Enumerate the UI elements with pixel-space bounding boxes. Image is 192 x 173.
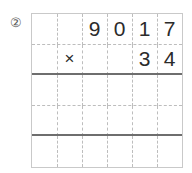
grid-cell-r5c6[interactable]	[157, 136, 182, 167]
cell-value: 3	[139, 48, 151, 69]
multiply-operator-icon: ×	[65, 50, 75, 67]
grid-cell-r4c4[interactable]	[107, 106, 132, 137]
circled-numeral-two-icon: ②	[6, 12, 26, 32]
cell-value: 0	[114, 18, 126, 39]
grid-cell-r1c5[interactable]: 1	[132, 14, 157, 45]
cell-value: 9	[89, 18, 101, 39]
grid-cell-r5c2[interactable]	[57, 136, 82, 167]
grid-cell-r5c1[interactable]	[32, 136, 57, 167]
grid-cell-r1c6[interactable]: 7	[157, 14, 182, 45]
grid-cell-r2c1[interactable]	[32, 45, 57, 76]
grid-cell-r3c5[interactable]	[132, 75, 157, 106]
grid-cell-r2c4[interactable]	[107, 45, 132, 76]
grid-cell-r1c4[interactable]: 0	[107, 14, 132, 45]
table-row: 9 0 1 7	[32, 14, 182, 45]
grid-cell-r5c3[interactable]	[82, 136, 107, 167]
grid-cell-r2c2[interactable]: ×	[57, 45, 82, 76]
grid-cell-r1c3[interactable]: 9	[82, 14, 107, 45]
grid-cell-r5c5[interactable]	[132, 136, 157, 167]
grid-cell-r3c2[interactable]	[57, 75, 82, 106]
grid-cell-r4c6[interactable]	[157, 106, 182, 137]
grid-cell-r3c1[interactable]	[32, 75, 57, 106]
grid-cell-r5c4[interactable]	[107, 136, 132, 167]
cell-value: 1	[139, 18, 151, 39]
grid-cell-r3c4[interactable]	[107, 75, 132, 106]
grid-cell-r3c3[interactable]	[82, 75, 107, 106]
cell-value: 4	[164, 48, 176, 69]
grid-cell-r2c5[interactable]: 3	[132, 45, 157, 76]
worksheet-page: ② 9 0 1 7 × 3 4	[0, 0, 192, 173]
grid-cell-r4c2[interactable]	[57, 106, 82, 137]
grid-cell-r1c1[interactable]	[32, 14, 57, 45]
grid-cell-r1c2[interactable]	[57, 14, 82, 45]
grid-cell-r4c1[interactable]	[32, 106, 57, 137]
grid-cell-r3c6[interactable]	[157, 75, 182, 106]
grid-cell-r4c5[interactable]	[132, 106, 157, 137]
cell-value: 7	[164, 18, 176, 39]
table-row	[32, 136, 182, 167]
table-row	[32, 106, 182, 137]
grid-cell-r2c6[interactable]: 4	[157, 45, 182, 76]
grid-cell-r4c3[interactable]	[82, 106, 107, 137]
grid-cell-r2c3[interactable]	[82, 45, 107, 76]
table-row: × 3 4	[32, 45, 182, 76]
table-row	[32, 75, 182, 106]
multiplication-grid: 9 0 1 7 × 3 4	[31, 13, 183, 168]
